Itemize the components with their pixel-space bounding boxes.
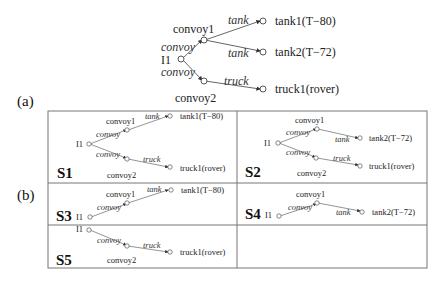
- node-i1: [178, 56, 184, 62]
- svg-text:convoy: convoy: [96, 149, 120, 159]
- node-convoy1: [201, 37, 207, 43]
- label-convoy1: convoy1: [173, 22, 214, 36]
- svg-text:convoy: convoy: [288, 202, 312, 212]
- panel-s5: I1 convoy2 truck1(rover) convoy truck S5: [56, 224, 225, 268]
- svg-text:I1: I1: [76, 224, 83, 234]
- node-truck1: [260, 86, 266, 92]
- svg-text:tank2(T−72): tank2(T−72): [369, 133, 412, 143]
- svg-text:convoy1: convoy1: [296, 189, 325, 199]
- panel-label-s5: S5: [56, 252, 72, 268]
- svg-text:I1: I1: [264, 138, 271, 148]
- edge-label-convoy-1: convoy: [161, 40, 196, 54]
- svg-text:convoy: convoy: [286, 127, 310, 137]
- svg-text:truck: truck: [333, 153, 351, 163]
- edge-label-convoy-2: convoy: [161, 65, 196, 79]
- edge-label-truck: truck: [224, 74, 249, 88]
- panel-s4: I1 convoy1 tank2(T−72) convoy tank S4: [245, 189, 415, 222]
- svg-text:truck1(rover): truck1(rover): [369, 161, 414, 171]
- panel-s1: I1 convoy1 convoy2 tank1(T−80) truck1(ro…: [57, 111, 225, 181]
- svg-text:I1: I1: [76, 212, 83, 222]
- svg-text:tank1(T−80): tank1(T−80): [181, 185, 224, 195]
- svg-text:convoy: convoy: [97, 235, 121, 245]
- svg-text:convoy1: convoy1: [106, 116, 135, 126]
- svg-text:tank: tank: [336, 207, 351, 217]
- panel-label-s1: S1: [57, 165, 73, 181]
- node-convoy2: [201, 78, 207, 84]
- svg-text:tank: tank: [335, 134, 350, 144]
- svg-text:truck1(rover): truck1(rover): [180, 247, 225, 257]
- svg-text:tank: tank: [145, 111, 160, 121]
- svg-text:truck: truck: [143, 154, 161, 164]
- svg-text:convoy2: convoy2: [297, 168, 326, 178]
- svg-text:convoy2: convoy2: [107, 255, 136, 265]
- edge-label-tank-2: tank: [228, 46, 249, 60]
- node-tank2: [260, 49, 266, 55]
- label-tank1: tank1(T−80): [275, 14, 336, 28]
- svg-text:convoy1: convoy1: [106, 189, 135, 199]
- svg-text:I1: I1: [265, 210, 272, 220]
- main-tree: I1 convoy1 convoy2 tank1(T−80) tank2(T−7…: [161, 13, 339, 105]
- panel-s2: I1 convoy1 convoy2 tank2(T−72) truck1(ro…: [245, 115, 414, 180]
- edge-label-tank-1: tank: [228, 13, 249, 27]
- svg-text:convoy: convoy: [286, 147, 310, 157]
- svg-text:convoy2: convoy2: [107, 170, 136, 180]
- panel-label-s3: S3: [56, 208, 72, 224]
- svg-text:tank: tank: [147, 184, 162, 194]
- caption-a: (a): [17, 93, 34, 110]
- panel-label-s2: S2: [245, 164, 261, 180]
- svg-text:convoy: convoy: [97, 202, 121, 212]
- label-convoy2: convoy2: [175, 91, 216, 105]
- svg-text:convoy: convoy: [96, 129, 120, 139]
- caption-b: (b): [17, 187, 35, 204]
- node-tank1: [260, 18, 266, 24]
- label-tank2: tank2(T−72): [275, 45, 336, 59]
- svg-text:truck: truck: [143, 240, 161, 250]
- svg-text:truck1(rover): truck1(rover): [180, 163, 225, 173]
- diagram-canvas: I1 convoy1 convoy2 tank1(T−80) tank2(T−7…: [0, 0, 442, 281]
- panel-label-s4: S4: [245, 206, 261, 222]
- svg-text:convoy1: convoy1: [295, 115, 324, 125]
- label-truck1: truck1(rover): [275, 82, 339, 96]
- svg-text:tank2(T−72): tank2(T−72): [372, 207, 415, 217]
- panel-s3: I1 convoy1 tank1(T−80) convoy tank S3: [56, 184, 224, 224]
- svg-text:tank1(T−80): tank1(T−80): [180, 111, 223, 121]
- svg-text:I1: I1: [76, 139, 83, 149]
